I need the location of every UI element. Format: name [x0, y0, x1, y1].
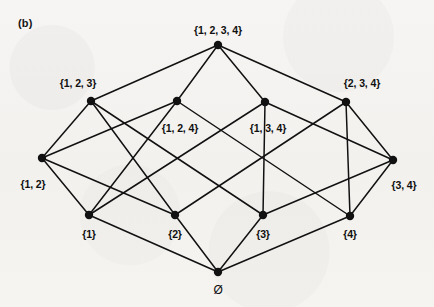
lattice-edge	[89, 101, 177, 215]
lattice-node-label: {3, 4}	[391, 179, 416, 191]
lattice-edge	[263, 160, 393, 215]
lattice-node-label: {2}	[168, 228, 182, 240]
lattice-node	[214, 41, 222, 49]
lattice-edge	[89, 215, 218, 272]
lattice-node-label: {1, 2, 4}	[162, 122, 198, 134]
lattice-node	[389, 156, 397, 164]
hasse-diagram	[0, 0, 434, 307]
lattice-node-label: {1}	[82, 228, 96, 240]
lattice-node-label: {4}	[343, 228, 357, 240]
lattice-node	[261, 98, 269, 106]
lattice-node	[342, 98, 350, 106]
lattice-edge	[218, 215, 263, 272]
lattice-edge	[218, 45, 346, 102]
lattice-node	[214, 268, 222, 276]
lattice-edge	[42, 158, 175, 215]
lattice-edge	[175, 102, 346, 215]
lattice-node	[173, 97, 181, 105]
lattice-edge	[91, 45, 218, 101]
lattice-node-label: {1, 3, 4}	[250, 122, 286, 134]
lattice-edge	[218, 216, 350, 272]
lattice-node	[346, 212, 354, 220]
lattice-node-label: {2, 3, 4}	[344, 77, 380, 89]
lattice-edge	[42, 101, 91, 158]
lattice-edge	[42, 158, 89, 215]
lattice-node	[38, 154, 46, 162]
lattice-edge	[175, 215, 218, 272]
figure-canvas: (b) {1, 2, 3, 4}{1, 2, 3}{1, 2, 4}{1, 3,…	[0, 0, 434, 307]
lattice-node	[171, 211, 179, 219]
lattice-edge	[218, 45, 265, 102]
lattice-node	[85, 211, 93, 219]
panel-label: (b)	[18, 17, 33, 29]
lattice-node-label: Ø	[213, 283, 222, 297]
lattice-node-label: {1, 2, 3}	[60, 77, 96, 89]
lattice-node-label: {3}	[256, 228, 270, 240]
lattice-node	[259, 211, 267, 219]
lattice-node	[87, 97, 95, 105]
lattice-edge	[42, 101, 177, 158]
lattice-edge	[346, 102, 350, 216]
lattice-node-label: {1, 2, 3, 4}	[194, 24, 242, 36]
lattice-node-label: {1, 2}	[20, 178, 45, 190]
lattice-edge	[346, 102, 393, 160]
lattice-edge	[263, 102, 265, 215]
